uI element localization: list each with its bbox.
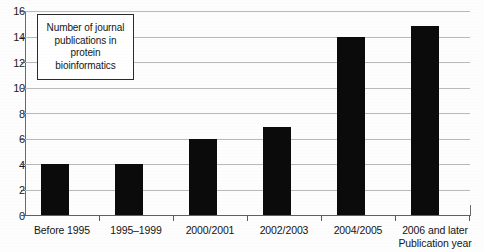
x-category-label-2002-2003: 2002/2003 [247,224,321,236]
bar-2006-and-later [411,26,439,215]
bar-2000-2001 [189,139,217,216]
x-category-label-2006-and-later: 2006 and later [393,224,477,236]
x-category-label-2000-2001: 2000/2001 [173,224,247,236]
gridline-10 [25,88,470,89]
x-tick-mark [469,216,470,221]
bar-2002-2003 [263,127,291,215]
x-category-label-2004-2005: 2004/2005 [321,224,395,236]
bar-before-1995 [41,164,69,215]
x-tick-mark [247,216,248,221]
gridline-16 [25,11,470,12]
x-axis-right-cap [470,205,471,216]
annotation-box: Number of journal publications in protei… [37,14,134,80]
bar-1995-1999 [115,164,143,215]
y-tick-label: 12 [7,58,25,69]
gridline-2 [25,190,470,191]
gridline-8 [25,113,470,114]
y-tick-label: 4 [7,160,25,171]
x-tick-mark [173,216,174,221]
x-category-label-1995-1999: 1995–1999 [99,224,173,236]
bar-chart: 16 14 12 10 8 6 4 2 0 [0,0,484,252]
x-tick-mark [321,216,322,221]
gridline-4 [25,164,470,165]
gridline-6 [25,139,470,140]
y-tick-label: 8 [7,109,25,120]
annotation-text: Number of journal publications in protei… [38,22,133,72]
y-tick-label: 0 [7,211,25,222]
x-category-label-before-1995: Before 1995 [25,224,99,236]
y-axis: 16 14 12 10 8 6 4 2 0 [0,0,25,252]
x-tick-mark [395,216,396,221]
x-axis-line [25,215,471,216]
x-tick-mark [99,216,100,221]
x-axis-title: Publication year [393,237,477,249]
bar-2004-2005 [337,37,365,216]
